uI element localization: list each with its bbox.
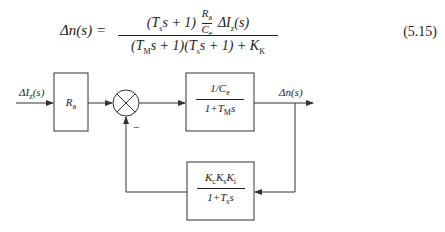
input-label: ΔIz(s) <box>19 86 44 101</box>
feedback-return-line <box>255 103 295 192</box>
forward-block-label: 1/Ce 1+TMs <box>186 82 254 117</box>
feedback-block-label: KcKsKi 1+Tss <box>187 171 254 206</box>
minus-sign: − <box>133 120 140 135</box>
output-label: Δn(s) <box>279 86 303 98</box>
ra-block-label: Ra <box>54 96 88 111</box>
